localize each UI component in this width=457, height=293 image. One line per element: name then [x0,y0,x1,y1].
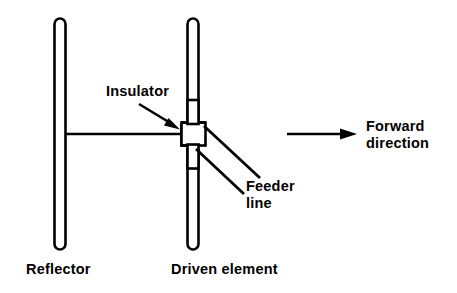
insulator-block-body [182,123,206,146]
label-driven-element: Driven element [171,261,278,278]
label-forward-line-1: Forward [366,118,425,134]
forward-direction-arrowhead [340,129,357,140]
antenna-diagram: Insulator Feederline Forwarddirection Re… [0,0,457,293]
label-feeder-line-1: Feeder [246,178,295,194]
label-reflector: Reflector [26,261,91,278]
reflector-rod [55,19,66,250]
label-feeder-line-2: line [246,195,272,211]
label-forward-direction: Forwarddirection [366,118,429,152]
label-forward-line-2: direction [366,135,429,151]
label-feeder-line: Feederline [246,178,295,212]
feeder-line-upper [204,126,260,178]
driven-upper-rod-overlay [188,100,199,124]
label-insulator: Insulator [106,83,169,100]
